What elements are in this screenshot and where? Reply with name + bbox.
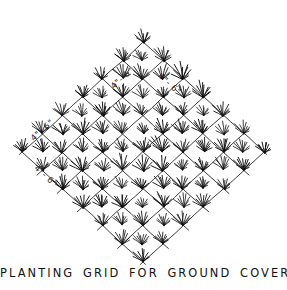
grass-tuft-icon [73, 104, 88, 116]
grass-tuft-icon [53, 102, 69, 115]
grass-tuft-icon [14, 139, 28, 152]
grass-tuft-icon [256, 142, 271, 153]
grass-tuft-icon [192, 119, 208, 133]
grass-tuft-icon [94, 139, 110, 152]
grass-tuft-icon [137, 123, 149, 133]
grass-tuft-icon [172, 176, 190, 189]
grass-tuft-icon [135, 29, 150, 43]
grass-tuft-icon [53, 140, 67, 153]
grass-tuft-icon [153, 175, 171, 188]
grass-tuft-icon [157, 213, 170, 225]
grass-blade [143, 34, 144, 43]
grass-tuft-icon [113, 212, 127, 224]
grass-tuft-icon [213, 156, 229, 170]
grass-tuft-icon [115, 48, 131, 61]
grass-tuft-icon [151, 155, 169, 171]
grass-tuft-icon [171, 61, 191, 79]
grass-blade [213, 162, 223, 169]
grass-tuft-icon [73, 176, 88, 189]
grass-tuft-icon [133, 50, 148, 60]
grass-tuft-icon [93, 177, 108, 189]
grass-tuft-icon [174, 193, 190, 207]
ground-cover-plant-symbols [14, 29, 271, 261]
grass-tuft-icon [115, 230, 130, 245]
planting-grid-figure: 4"- 6"4"- 6"4"- 6"4"- 6" PLANTING GRID F… [0, 0, 287, 290]
grass-tuft-icon [131, 178, 148, 189]
grass-tuft-icon [113, 101, 130, 115]
grass-tuft-icon [218, 179, 230, 190]
grass-tuft-icon [133, 233, 149, 245]
grass-blade [103, 126, 109, 133]
grass-tuft-icon [93, 195, 108, 207]
grass-tuft-icon [95, 158, 111, 170]
grass-tuft-icon [70, 157, 90, 171]
grass-tuft-icon [112, 195, 130, 208]
grass-tuft-icon [153, 192, 172, 207]
grass-tuft-icon [172, 211, 190, 225]
grass-tuft-icon [154, 118, 169, 133]
grass-tuft-icon [212, 102, 230, 116]
grass-tuft-icon [133, 138, 151, 151]
grass-tuft-icon [172, 119, 190, 133]
grass-blade [133, 252, 143, 261]
grass-tuft-icon [75, 85, 88, 97]
grass-tuft-icon [195, 157, 209, 170]
grass-tuft-icon [93, 86, 107, 98]
grass-tuft-icon [215, 121, 228, 134]
grass-tuft-icon [115, 138, 128, 151]
figure-caption: PLANTING GRID FOR GROUND COVERS [0, 266, 287, 280]
grass-tuft-icon [135, 198, 148, 207]
grass-tuft-icon [133, 248, 149, 261]
grass-tuft-icon [174, 160, 188, 170]
dimension-label: 4"- 6" [108, 65, 135, 91]
grass-tuft-icon [173, 139, 189, 152]
grass-blade [116, 103, 123, 115]
planting-grid-drawing: 4"- 6"4"- 6"4"- 6"4"- 6" [0, 0, 287, 290]
grass-tuft-icon [94, 67, 108, 79]
grass-tuft-icon [196, 105, 208, 115]
grass-tuft-icon [195, 177, 209, 188]
grass-blade [142, 155, 144, 171]
grass-tuft-icon [214, 139, 230, 152]
grass-tuft-icon [113, 176, 127, 188]
